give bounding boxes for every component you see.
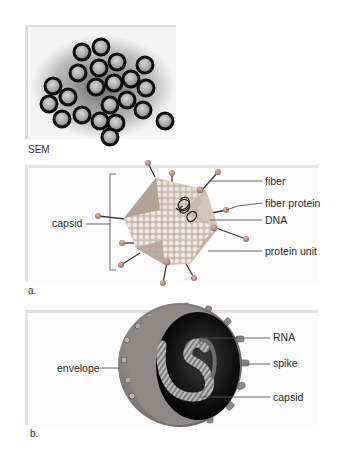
label-rna: RNA	[273, 331, 295, 343]
label-spike: spike	[273, 357, 298, 369]
label-envelope: envelope	[57, 362, 100, 374]
panel-b-caption: b.	[30, 428, 38, 440]
enveloped-virus-illustration	[0, 0, 338, 454]
label-capsid-b: capsid	[273, 391, 303, 403]
